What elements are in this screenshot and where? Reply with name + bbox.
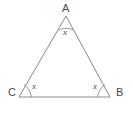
vertex-label-c: C [8,87,16,98]
angle-label-c: x [32,82,36,91]
vertex-label-b: B [116,87,123,98]
angle-label-b: x [93,82,97,91]
vertex-label-a: A [62,3,69,14]
geometry-figure: A C B x x x [0,0,133,115]
angle-label-a: x [63,28,67,37]
triangle-svg [0,0,133,115]
